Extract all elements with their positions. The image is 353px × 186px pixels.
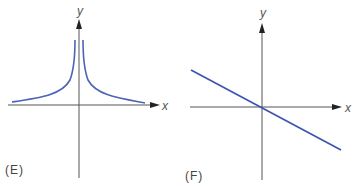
panel-label: (E) (5, 163, 24, 177)
y-axis-arrow-icon (259, 23, 265, 33)
graph-f-plot (176, 0, 353, 186)
curve-left-branch (12, 40, 75, 102)
y-axis-label: y (260, 6, 266, 20)
y-axis-label: y (77, 4, 83, 18)
panel-label: (F) (185, 169, 203, 183)
x-axis-arrow-icon (150, 102, 160, 108)
y-axis-arrow-icon (76, 19, 82, 29)
x-axis-arrow-icon (332, 104, 342, 110)
curve-line (191, 70, 341, 150)
graph-e-plot (0, 0, 176, 186)
x-axis-label: x (345, 101, 351, 115)
curve-right-branch (83, 40, 145, 103)
x-axis-label: x (162, 99, 168, 113)
graph-f: y x (F) (176, 0, 353, 186)
graph-e: y x (E) (0, 0, 176, 186)
